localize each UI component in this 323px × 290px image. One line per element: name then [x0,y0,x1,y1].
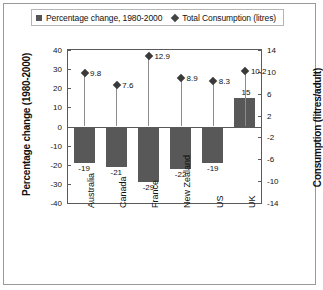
right-axis-tick [258,181,261,182]
bar-france [138,127,159,182]
diamond-marker-icon [171,13,179,21]
right-axis-tick [258,137,261,138]
left-axis-tick-label: 0 [58,122,62,131]
right-axis-tick [258,203,261,204]
bar-value-label: -19 [196,164,230,173]
x-axis-label-us: US [215,195,225,208]
marker-value-label: 8.9 [187,73,198,82]
left-axis-tick [68,50,71,51]
diamond-marker-france [145,52,153,60]
right-axis-tick-label: -2 [267,133,274,142]
bar-canada [106,127,127,167]
left-axis-tick [68,146,71,147]
marker-value-label: 7.6 [122,80,133,89]
left-axis-tick-label: -40 [50,199,62,208]
right-axis-tick-label: 14 [267,46,276,55]
bar-value-label: -29 [131,183,165,192]
left-axis-tick-label: 30 [53,65,62,74]
x-axis-label-france: France [150,180,160,208]
bar-value-label: -21 [99,168,133,177]
square-marker-icon [36,15,42,21]
marker-stem [116,85,117,127]
marker-value-label: 8.3 [219,77,230,86]
legend-item-total-consumption: Total Consumption (litres) [182,13,276,23]
right-axis-tick-label: 10 [267,67,276,76]
bar-australia [74,127,95,163]
bar-value-label: -19 [67,164,101,173]
marker-stem [148,56,149,126]
left-axis-tick [68,69,71,70]
marker-stem [245,71,246,127]
left-axis-tick-label: -20 [50,160,62,169]
diamond-marker-australia [80,69,88,77]
right-axis-tick [258,50,261,51]
chart-legend: Percentage change, 1980-2000 Total Consu… [31,9,284,26]
right-axis-tick-label: -6 [267,155,274,164]
x-axis-label-canada: Canada [118,176,128,208]
x-axis-label-uk: UK [247,195,257,208]
bar-value-label: -22 [164,170,198,179]
legend-item-percentage-change: Percentage change, 1980-2000 [46,13,162,23]
plot-area: 403020100-10-20-30-40141062-2-6-10-14-19… [67,49,262,204]
chart-frame: Percentage change, 1980-2000 Total Consu… [3,3,316,285]
right-axis-tick-label: -10 [267,177,279,186]
left-axis-title: Percentage change (1980-2000) [21,50,32,200]
diamond-marker-canada [113,81,121,89]
marker-stem [213,81,214,126]
left-axis-tick-label: 10 [53,103,62,112]
bar-us [202,127,223,163]
left-axis-tick [68,127,71,128]
left-axis-tick-label: 40 [53,46,62,55]
left-axis-tick [68,107,71,108]
marker-value-label: 10.2 [251,66,267,75]
diamond-marker-us [209,77,217,85]
bar-value-label: 15 [229,88,263,97]
x-axis-label-new-zealand: New Zealand [182,155,192,208]
left-axis-tick-label: -30 [50,179,62,188]
left-axis-tick-label: -10 [50,141,62,150]
right-axis-tick [258,159,261,160]
zero-baseline [68,127,261,128]
right-axis-tick-label: -14 [267,199,279,208]
diamond-marker-new-zealand [177,74,185,82]
right-axis-tick [258,116,261,117]
left-axis-tick-label: 20 [53,84,62,93]
right-axis-tick-label: 2 [267,111,271,120]
left-axis-tick [68,184,71,185]
marker-value-label: 9.8 [90,68,101,77]
left-axis-tick [68,203,71,204]
marker-value-label: 12.9 [154,52,170,61]
marker-stem [181,78,182,127]
diamond-marker-uk [241,67,249,75]
right-axis-title: Consumption (litres/adult) [312,53,323,203]
left-axis-tick [68,88,71,89]
marker-stem [84,73,85,127]
right-axis-tick-label: 6 [267,89,271,98]
x-axis-label-australia: Australia [86,173,96,208]
